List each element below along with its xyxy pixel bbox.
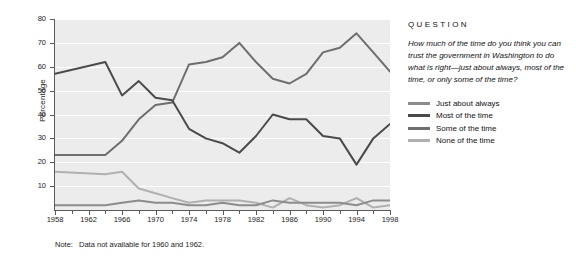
y-axis-tick-label: 40 xyxy=(0,110,46,119)
y-axis-tick xyxy=(50,138,54,139)
y-axis-tick-label: 70 xyxy=(0,38,46,47)
x-axis-minor-tick xyxy=(105,211,106,214)
chart-note: Note: Data not available for 1960 and 19… xyxy=(55,240,204,249)
note-label: Note: xyxy=(55,240,73,249)
legend-item[interactable]: Some of the time xyxy=(408,124,568,133)
legend-swatch-icon xyxy=(408,102,430,105)
y-axis-tick xyxy=(50,186,54,187)
question-text: How much of the time do you think you ca… xyxy=(408,38,568,87)
y-axis-tick-label: 50 xyxy=(0,86,46,95)
series-line xyxy=(55,62,390,165)
y-axis-tick-label: 10 xyxy=(0,181,46,190)
y-axis-tick xyxy=(50,19,54,20)
line-series-svg xyxy=(55,19,390,210)
y-axis-tick xyxy=(50,91,54,92)
y-axis-tick xyxy=(50,162,54,163)
x-axis-minor-tick xyxy=(373,211,374,214)
y-axis-tick-label: 80 xyxy=(0,14,46,23)
x-axis-minor-tick xyxy=(206,211,207,214)
y-axis-tick-label: 20 xyxy=(0,157,46,166)
chart-screenshot: Percentage 1020304050607080 195819621966… xyxy=(0,0,576,267)
legend-label: Just about always xyxy=(436,99,500,108)
x-axis-tick-label: 1998 xyxy=(370,215,410,224)
series-line xyxy=(55,33,390,155)
question-heading: QUESTION xyxy=(408,20,568,29)
legend-swatch-icon xyxy=(408,139,430,142)
legend-label: None of the time xyxy=(436,136,495,145)
y-axis-tick xyxy=(50,67,54,68)
y-axis-tick xyxy=(50,115,54,116)
plot-area xyxy=(55,19,390,210)
x-axis-minor-tick xyxy=(72,211,73,214)
legend-item[interactable]: Most of the time xyxy=(408,111,568,120)
series-lines xyxy=(55,19,390,210)
y-axis-line xyxy=(54,19,55,211)
y-axis-tick-label: 30 xyxy=(0,133,46,142)
x-axis-minor-tick xyxy=(306,211,307,214)
question-panel: QUESTION How much of the time do you thi… xyxy=(408,20,568,149)
x-axis-minor-tick xyxy=(340,211,341,214)
chart-legend: Just about alwaysMost of the timeSome of… xyxy=(408,99,568,146)
legend-swatch-icon xyxy=(408,114,430,117)
x-axis-minor-tick xyxy=(239,211,240,214)
legend-swatch-icon xyxy=(408,127,430,130)
legend-label: Some of the time xyxy=(436,124,496,133)
note-text: Data not available for 1960 and 1962. xyxy=(79,240,204,249)
x-axis-minor-tick xyxy=(139,211,140,214)
trust-in-government-line-chart: Percentage 1020304050607080 195819621966… xyxy=(0,0,400,267)
y-axis-title: Percentage xyxy=(38,61,47,141)
x-axis-minor-tick xyxy=(273,211,274,214)
legend-item[interactable]: None of the time xyxy=(408,136,568,145)
legend-label: Most of the time xyxy=(436,111,493,120)
y-axis-tick-label: 60 xyxy=(0,62,46,71)
x-axis-minor-tick xyxy=(172,211,173,214)
legend-item[interactable]: Just about always xyxy=(408,99,568,108)
y-axis-tick xyxy=(50,43,54,44)
